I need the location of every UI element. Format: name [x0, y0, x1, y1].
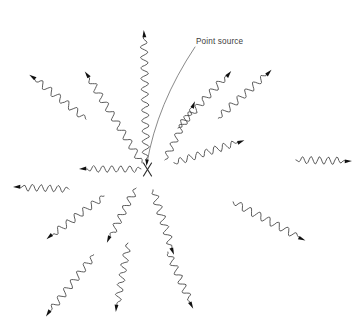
point-source-label: Point source — [196, 37, 244, 46]
labels-group: Point source — [196, 37, 244, 46]
diagram-background — [0, 0, 361, 319]
diagram-canvas: Point source — [0, 0, 361, 319]
point-source-diagram: Point source — [0, 0, 361, 319]
